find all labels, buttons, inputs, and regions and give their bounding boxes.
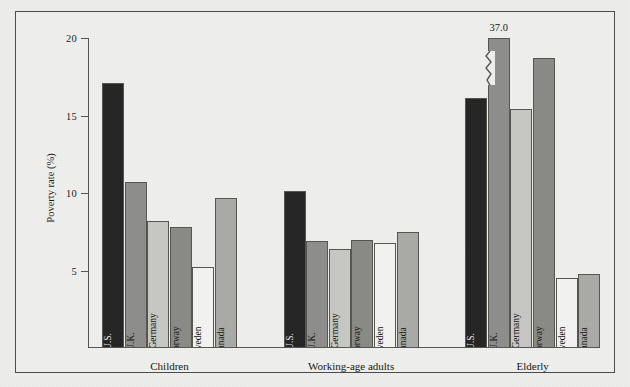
figure-frame: Poverty rate (%) 5101520 U.S.U.K.West Ge… bbox=[15, 11, 615, 373]
bar-value-annotation: 37.0 bbox=[490, 22, 508, 33]
bar-elderly-west-germany[interactable]: West Germany bbox=[510, 109, 532, 348]
bar-country-label: U.S. bbox=[467, 333, 477, 348]
bar-country-label: Canada bbox=[398, 327, 408, 348]
bar-working-age-adults-canada[interactable]: Canada bbox=[397, 232, 419, 348]
bar-country-label: U.K. bbox=[126, 332, 136, 348]
bar-country-label: Canada bbox=[580, 327, 590, 348]
bar-working-age-adults-west-germany[interactable]: West Germany bbox=[329, 249, 351, 348]
bar-children-west-germany[interactable]: West Germany bbox=[147, 221, 169, 348]
bar-country-label: Norway bbox=[171, 326, 181, 348]
bar-children-canada[interactable]: Canada bbox=[215, 198, 237, 348]
bar-children-sweden[interactable]: Sweden bbox=[192, 267, 214, 348]
bar-country-label: Sweden bbox=[557, 326, 567, 348]
y-tick-label-20: 20 bbox=[66, 33, 77, 44]
bar-country-label: Norway bbox=[535, 326, 545, 348]
bar-country-label: Sweden bbox=[194, 326, 204, 348]
y-tick-10: 10 bbox=[81, 193, 88, 194]
bar-country-label: U.K. bbox=[489, 332, 499, 348]
bar-country-label: U.S. bbox=[104, 333, 114, 348]
axis-break-zigzag-icon bbox=[483, 51, 495, 85]
bar-elderly-u-s-[interactable]: U.S. bbox=[465, 98, 487, 348]
group-label-children: Children bbox=[150, 360, 189, 372]
y-tick-20: 20 bbox=[81, 38, 88, 39]
bar-country-label: Norway bbox=[353, 326, 363, 348]
group-label-elderly: Elderly bbox=[516, 360, 548, 372]
bar-country-label: Sweden bbox=[376, 326, 386, 348]
bar-country-label: U.K. bbox=[308, 332, 318, 348]
bar-working-age-adults-u-k-[interactable]: U.K. bbox=[306, 241, 328, 348]
bar-working-age-adults-sweden[interactable]: Sweden bbox=[374, 243, 396, 348]
bar-children-u-k-[interactable]: U.K. bbox=[125, 182, 147, 348]
bar-children-norway[interactable]: Norway bbox=[170, 227, 192, 348]
bar-elderly-sweden[interactable]: Sweden bbox=[556, 278, 578, 348]
bar-elderly-canada[interactable]: Canada bbox=[578, 274, 600, 348]
bar-country-label: West Germany bbox=[512, 313, 522, 348]
bar-country-label: U.S. bbox=[285, 333, 295, 348]
plot-area: 5101520 U.S.U.K.West GermanyNorwaySweden… bbox=[88, 38, 559, 348]
figure-container: Poverty rate (%) 5101520 U.S.U.K.West Ge… bbox=[0, 0, 630, 387]
bar-working-age-adults-u-s-[interactable]: U.S. bbox=[284, 191, 306, 348]
y-axis-label: Poverty rate (%) bbox=[45, 153, 56, 222]
y-axis-line bbox=[88, 38, 89, 348]
bar-children-u-s-[interactable]: U.S. bbox=[102, 83, 124, 348]
bar-country-label: Canada bbox=[217, 327, 227, 348]
bar-working-age-adults-norway[interactable]: Norway bbox=[351, 240, 373, 349]
bar-country-label: West Germany bbox=[149, 313, 159, 348]
bar-elderly-norway[interactable]: Norway bbox=[533, 58, 555, 348]
y-tick-label-10: 10 bbox=[66, 188, 77, 199]
bar-country-label: West Germany bbox=[330, 313, 340, 348]
y-tick-15: 15 bbox=[81, 116, 88, 117]
y-tick-label-15: 15 bbox=[66, 110, 77, 121]
y-tick-label-5: 5 bbox=[72, 265, 77, 276]
y-tick-5: 5 bbox=[81, 271, 88, 272]
group-label-working-age-adults: Working-age adults bbox=[308, 360, 394, 372]
